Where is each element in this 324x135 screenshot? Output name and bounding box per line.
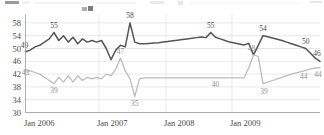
- y-tick-label: 50: [13, 44, 22, 54]
- data-point-label: 55: [50, 21, 58, 30]
- gridlines-horizontal: [26, 23, 321, 113]
- y-axis-tick-labels: 5854504642383430: [13, 18, 22, 118]
- data-point-label: 46: [313, 49, 321, 58]
- data-point-label: 39: [260, 87, 268, 96]
- data-point-label: 54: [259, 24, 267, 33]
- x-axis-tick-labels: Jan 2006Jan 2007Jan 2008Jan 2009: [24, 118, 260, 128]
- data-point-label: 35: [131, 99, 139, 108]
- x-tick-label: Jan 2009: [230, 118, 260, 128]
- data-point-label: 40: [212, 80, 220, 89]
- data-point-label: 50: [302, 37, 310, 46]
- y-tick-label: 58: [13, 18, 22, 28]
- x-tick-label: Jan 2006: [24, 118, 54, 128]
- data-point-label: 39: [50, 86, 58, 95]
- axis-lines: [26, 15, 321, 113]
- data-point-label: 44: [300, 72, 308, 81]
- data-point-label: 55: [207, 21, 215, 30]
- y-tick-label: 30: [13, 108, 22, 118]
- data-point-label: 47: [117, 47, 125, 56]
- y-tick-label: 34: [13, 95, 22, 105]
- y-tick-label: 46: [13, 56, 22, 66]
- series-line-upper: [26, 23, 321, 61]
- chart-container: 5854504642383430 Jan 2006Jan 2007Jan 200…: [0, 0, 324, 135]
- data-point-labels: 49555855545046433947354048394444: [21, 11, 322, 108]
- x-tick-label: Jan 2008: [164, 118, 194, 128]
- line-chart-plot: 5854504642383430 Jan 2006Jan 2007Jan 200…: [0, 0, 324, 135]
- data-point-label: 58: [126, 11, 134, 20]
- y-tick-label: 54: [13, 31, 22, 41]
- data-point-label: 49: [21, 41, 29, 50]
- data-point-label: 44: [314, 70, 322, 79]
- data-point-label: 48: [248, 44, 256, 53]
- series-lines: [26, 23, 321, 97]
- y-tick-label: 42: [13, 69, 22, 79]
- x-tick-label: Jan 2007: [97, 118, 127, 128]
- y-tick-label: 38: [13, 82, 22, 92]
